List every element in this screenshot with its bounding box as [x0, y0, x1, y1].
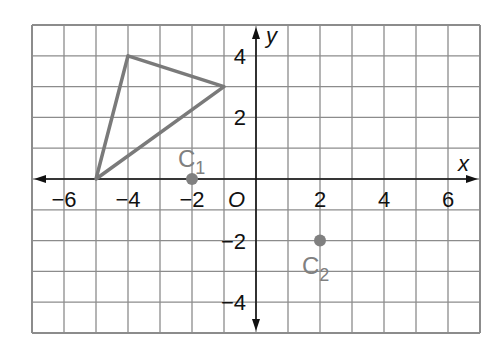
y-axis-label: y	[264, 23, 279, 48]
x-arrow-right-icon	[466, 175, 478, 183]
x-arrow-left-icon	[34, 175, 46, 183]
y-tick-label: −4	[221, 290, 246, 315]
x-tick-label: 2	[314, 187, 326, 212]
y-tick-label: −2	[221, 229, 246, 254]
x-tick-label: 4	[378, 187, 390, 212]
coordinate-plane: xyO −6−4−224642−2−4 C1C2 x y O	[0, 0, 503, 349]
y-arrow-up-icon	[252, 27, 260, 39]
points: C1C2	[178, 145, 329, 285]
x-tick-label: −6	[51, 187, 76, 212]
x-tick-label: 6	[442, 187, 454, 212]
point-c2	[314, 235, 326, 247]
y-tick-label: 4	[234, 44, 246, 69]
coordinate-graph: xyO −6−4−224642−2−4 C1C2	[0, 0, 503, 349]
point-c2-label: C2	[302, 252, 329, 285]
y-tick-label: 2	[234, 105, 246, 130]
x-tick-label: −4	[115, 187, 140, 212]
x-axis-label: x	[457, 151, 470, 176]
x-tick-label: −2	[179, 187, 204, 212]
y-arrow-down-icon	[252, 319, 260, 331]
origin-label: O	[228, 187, 245, 212]
